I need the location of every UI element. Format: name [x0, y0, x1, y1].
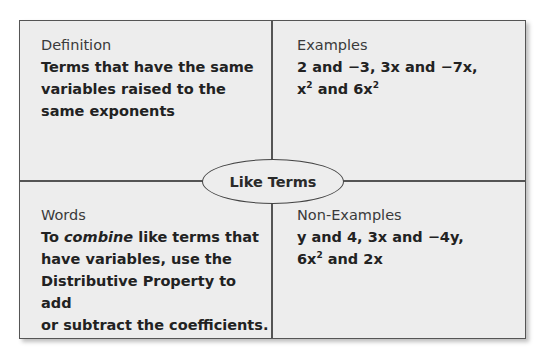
- definition-title: Definition: [41, 34, 266, 56]
- examples-line: 2 and −3, 3x and −7x,: [297, 56, 517, 78]
- center-label: Like Terms: [229, 174, 316, 190]
- words-line: or subtract the coefficients.: [41, 314, 271, 336]
- non-examples-text: y and 4, 3x and −4y, 6x2 and 2x: [297, 226, 517, 270]
- examples-line: x2 and 6x2: [297, 78, 517, 100]
- definition-line: variables raised to the: [41, 78, 266, 100]
- words-quadrant: Words To combine like terms that have va…: [41, 204, 271, 336]
- exponent: 2: [373, 80, 379, 90]
- definition-text: Terms that have the same variables raise…: [41, 56, 266, 122]
- words-line: Distributive Property to add: [41, 270, 271, 314]
- words-title: Words: [41, 204, 271, 226]
- non-examples-line: 6x2 and 2x: [297, 248, 517, 270]
- examples-quadrant: Examples 2 and −3, 3x and −7x, x2 and 6x…: [297, 34, 517, 100]
- words-line: have variables, use the: [41, 248, 271, 270]
- definition-quadrant: Definition Terms that have the same vari…: [41, 34, 266, 122]
- term: and 2x: [323, 251, 383, 267]
- examples-title: Examples: [297, 34, 517, 56]
- definition-line: Terms that have the same: [41, 56, 266, 78]
- non-examples-line: y and 4, 3x and −4y,: [297, 226, 517, 248]
- text-span: like terms that: [133, 229, 259, 245]
- definition-line: same exponents: [41, 100, 266, 122]
- non-examples-quadrant: Non-Examples y and 4, 3x and −4y, 6x2 an…: [297, 204, 517, 270]
- words-line: To combine like terms that: [41, 226, 271, 248]
- examples-text: 2 and −3, 3x and −7x, x2 and 6x2: [297, 56, 517, 100]
- frayer-model-diagram: Definition Terms that have the same vari…: [19, 20, 526, 339]
- emphasis-text: combine: [64, 229, 133, 245]
- center-ellipse: Like Terms: [202, 159, 344, 204]
- term: x: [297, 81, 306, 97]
- words-text: To combine like terms that have variable…: [41, 226, 271, 336]
- term: and 6x: [313, 81, 373, 97]
- non-examples-title: Non-Examples: [297, 204, 517, 226]
- text-span: To: [41, 229, 64, 245]
- term: 6x: [297, 251, 316, 267]
